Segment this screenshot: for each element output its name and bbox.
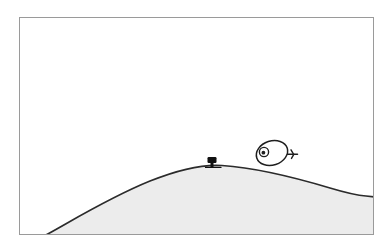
panel-canvas	[0, 0, 392, 252]
illustration-panel: Cartoon panel: creature on hilltop sky h…	[0, 0, 392, 252]
creature-pupil	[262, 151, 266, 155]
